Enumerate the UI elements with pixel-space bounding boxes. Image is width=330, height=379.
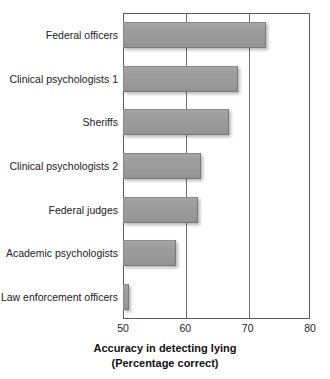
category-label: Sheriffs	[0, 109, 118, 135]
bar-law-enforcement-officers[interactable]	[123, 284, 129, 310]
x-axis-title-line1: Accuracy in detecting lying	[93, 342, 236, 354]
category-label: Academic psychologists	[0, 240, 118, 266]
bar-sheriffs[interactable]	[123, 109, 229, 135]
bar-academic-psychologists[interactable]	[123, 240, 176, 266]
x-tick-label: 60	[165, 322, 205, 334]
category-axis-labels: Federal officers Clinical psychologists …	[0, 13, 118, 319]
bar-clinical-psychologists-2[interactable]	[123, 153, 201, 179]
bar-federal-officers[interactable]	[123, 22, 266, 48]
bar-clinical-psychologists-1[interactable]	[123, 66, 238, 92]
category-label: Law enforcement officers	[0, 284, 118, 310]
category-label: Federal officers	[0, 22, 118, 48]
x-tick-label: 80	[290, 322, 330, 334]
x-axis-tick-labels: 50 60 70 80	[0, 322, 330, 338]
x-tick-label: 70	[228, 322, 268, 334]
bar-chart: Federal officers Clinical psychologists …	[0, 0, 330, 379]
category-label: Clinical psychologists 1	[0, 66, 118, 92]
x-axis-title: Accuracy in detecting lying (Percentage …	[0, 341, 330, 371]
bars-layer	[123, 13, 310, 319]
category-label: Clinical psychologists 2	[0, 153, 118, 179]
bar-federal-judges[interactable]	[123, 197, 198, 223]
x-axis-title-line2: (Percentage correct)	[0, 356, 330, 371]
category-label: Federal judges	[0, 197, 118, 223]
x-tick-label: 50	[103, 322, 143, 334]
